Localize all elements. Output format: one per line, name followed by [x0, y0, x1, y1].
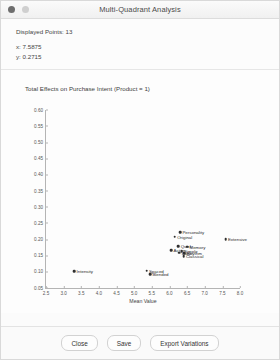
x-axis-tick: 5.0: [131, 288, 137, 296]
scatter-point[interactable]: [182, 255, 185, 258]
y-axis-tick: 0.25: [34, 220, 46, 225]
x-axis-label: Mean Value: [129, 298, 156, 304]
scatter-point-label: Original: [177, 234, 192, 239]
y-axis-tick: 0.10: [34, 269, 46, 274]
analysis-window: Multi-Quadrant Analysis Displayed Points…: [0, 0, 280, 360]
x-axis-tick: 4.0: [96, 288, 102, 296]
x-axis-tick: 3.5: [78, 288, 84, 296]
x-axis-tick: 6.0: [166, 288, 172, 296]
export-variations-button[interactable]: Export Variations: [150, 335, 218, 351]
scatter-point-label: Classical: [186, 253, 204, 258]
scatter-point[interactable]: [224, 238, 227, 241]
plot-panel: Total Effects on Purchase Intent (Produc…: [1, 70, 279, 313]
x-readout: x: 7.5875: [16, 42, 279, 52]
x-axis-tick: 4.5: [113, 288, 119, 296]
x-axis-tick: 5.5: [149, 288, 155, 296]
footer-button-bar: Close Save Export Variations: [1, 326, 279, 359]
close-button[interactable]: Close: [61, 335, 97, 351]
scatter-point-label: Intensity: [77, 269, 93, 274]
scatter-point[interactable]: [149, 273, 152, 276]
chart-title: Total Effects on Purchase Intent (Produc…: [25, 85, 150, 92]
x-axis-tick: 7.0: [202, 288, 208, 296]
y-axis-tick: 0.15: [34, 253, 46, 258]
y-axis-tick: 0.60: [34, 107, 46, 112]
scatter-point[interactable]: [179, 231, 182, 234]
scatter-point[interactable]: [178, 251, 181, 254]
x-axis-tick: 6.5: [184, 288, 190, 296]
title-bar: Multi-Quadrant Analysis: [1, 1, 279, 19]
save-button[interactable]: Save: [107, 335, 142, 351]
x-axis-tick: 7.5: [219, 288, 225, 296]
x-axis-tick: 8.0: [237, 288, 243, 296]
displayed-points-label: Displayed Points: 13: [16, 28, 279, 35]
scatter-point[interactable]: [145, 270, 148, 273]
scatter-point[interactable]: [173, 236, 176, 239]
scatter-point-label: Extensive: [228, 237, 247, 242]
y-axis-tick: 0.20: [34, 237, 46, 242]
scatter-point[interactable]: [170, 249, 173, 252]
scatter-point[interactable]: [73, 270, 76, 273]
scatter-plot-axes[interactable]: Mean Value 0.050.100.150.200.250.300.350…: [45, 110, 240, 289]
y-axis-tick: 0.35: [34, 188, 46, 193]
info-panel: Displayed Points: 13 x: 7.5875 y: 0.2715: [1, 19, 279, 70]
y-readout: y: 0.2715: [16, 52, 279, 62]
y-axis-tick: 0.45: [34, 156, 46, 161]
scatter-point-label: Blended: [152, 272, 168, 277]
y-axis-tick: 0.30: [34, 204, 46, 209]
window-title: Multi-Quadrant Analysis: [1, 5, 279, 14]
x-axis-tick: 3.0: [60, 288, 66, 296]
x-axis-tick: 2.5: [43, 288, 49, 296]
y-axis-tick: 0.40: [34, 172, 46, 177]
y-axis-tick: 0.55: [34, 123, 46, 128]
y-axis-tick: 0.50: [34, 140, 46, 145]
